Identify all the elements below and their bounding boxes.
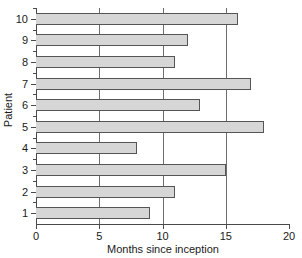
y-minor-tick-mark [33, 116, 36, 117]
x-axis-title: Months since inception [36, 243, 290, 255]
y-tick-label: 2 [4, 187, 28, 198]
y-tick-mark [31, 192, 36, 193]
x-tick-mark [99, 224, 100, 229]
y-tick-label: 4 [4, 143, 28, 154]
x-tick-mark [289, 224, 290, 229]
bar [36, 164, 226, 176]
x-tick-mark [163, 224, 164, 229]
y-axis-title: Patient [2, 80, 14, 140]
bar [36, 99, 200, 111]
y-tick-label: 3 [4, 165, 28, 176]
bar [36, 13, 238, 25]
y-minor-tick-mark [33, 202, 36, 203]
y-tick-label: 1 [4, 208, 28, 219]
bar [36, 186, 175, 198]
bar [36, 207, 150, 219]
gridline [226, 8, 227, 224]
y-tick-mark [31, 148, 36, 149]
bar [36, 142, 137, 154]
y-tick-label: 10 [4, 14, 28, 25]
x-tick-label: 15 [214, 230, 238, 242]
x-tick-mark [36, 224, 37, 229]
x-tick-label: 5 [87, 230, 111, 242]
x-tick-label: 20 [277, 230, 301, 242]
y-minor-tick-mark [33, 94, 36, 95]
y-minor-tick-mark [33, 51, 36, 52]
bar [36, 78, 251, 90]
bar [36, 121, 264, 133]
y-minor-tick-mark [33, 8, 36, 9]
y-tick-label: 8 [4, 57, 28, 68]
bar [36, 34, 188, 46]
bar-chart-figure: 0510152012345678910 Months since incepti… [0, 0, 302, 258]
x-tick-label: 10 [151, 230, 175, 242]
y-tick-mark [31, 19, 36, 20]
y-minor-tick-mark [33, 181, 36, 182]
y-tick-mark [31, 40, 36, 41]
y-tick-label: 9 [4, 35, 28, 46]
y-tick-mark [31, 105, 36, 106]
y-minor-tick-mark [33, 138, 36, 139]
x-tick-label: 0 [24, 230, 48, 242]
x-tick-mark [226, 224, 227, 229]
y-tick-mark [31, 213, 36, 214]
y-tick-mark [31, 170, 36, 171]
bar [36, 56, 175, 68]
y-tick-mark [31, 84, 36, 85]
y-tick-mark [31, 62, 36, 63]
y-minor-tick-mark [33, 73, 36, 74]
y-tick-mark [31, 127, 36, 128]
y-minor-tick-mark [33, 159, 36, 160]
plot-area [36, 8, 289, 224]
y-minor-tick-mark [33, 30, 36, 31]
